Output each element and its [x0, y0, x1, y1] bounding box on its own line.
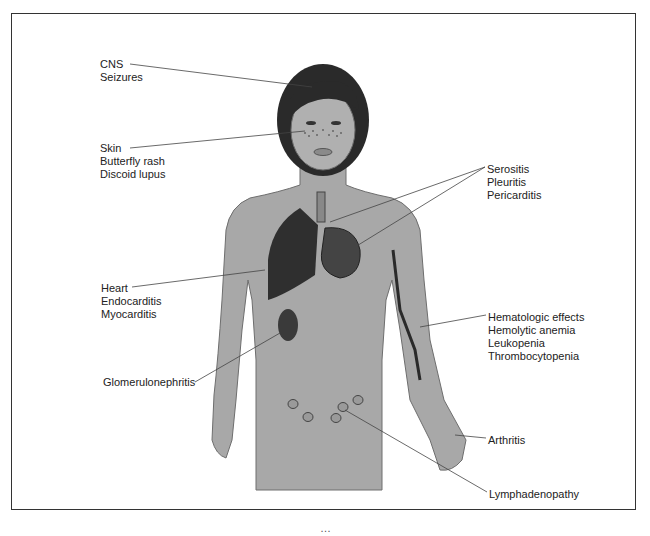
trachea	[317, 192, 325, 222]
label-line: Glomerulonephritis	[103, 376, 195, 389]
label-line: Serositis	[487, 163, 541, 176]
label-line: Pleuritis	[487, 176, 541, 189]
label-line: Heart	[101, 282, 162, 295]
label-cns: CNSSeizures	[100, 58, 143, 84]
label-serositis: SerositisPleuritisPericarditis	[487, 163, 541, 202]
label-line: Thrombocytopenia	[488, 350, 584, 363]
label-line: Myocarditis	[101, 308, 162, 321]
label-line: Discoid lupus	[100, 168, 165, 181]
label-hematologic: Hematologic effectsHemolytic anemiaLeuko…	[488, 311, 584, 363]
figure-caption: …	[320, 522, 331, 536]
label-line: Endocarditis	[101, 295, 162, 308]
label-lymphadenopathy: Lymphadenopathy	[489, 488, 579, 501]
label-glomerulonephritis: Glomerulonephritis	[103, 376, 195, 389]
label-line: Butterfly rash	[100, 155, 165, 168]
label-skin: SkinButterfly rashDiscoid lupus	[100, 142, 165, 181]
label-line: Arthritis	[488, 434, 525, 447]
label-line: CNS	[100, 58, 143, 71]
body-silhouette	[212, 160, 466, 490]
head	[277, 64, 369, 176]
kidney	[278, 309, 298, 341]
label-arthritis: Arthritis	[488, 434, 525, 447]
label-line: Pericarditis	[487, 189, 541, 202]
label-line: Skin	[100, 142, 165, 155]
label-line: Hematologic effects	[488, 311, 584, 324]
label-line: Lymphadenopathy	[489, 488, 579, 501]
body-illustration	[0, 0, 650, 536]
label-line: Seizures	[100, 71, 143, 84]
label-heart: HeartEndocarditisMyocarditis	[101, 282, 162, 321]
label-line: Hemolytic anemia	[488, 324, 584, 337]
label-line: Leukopenia	[488, 337, 584, 350]
